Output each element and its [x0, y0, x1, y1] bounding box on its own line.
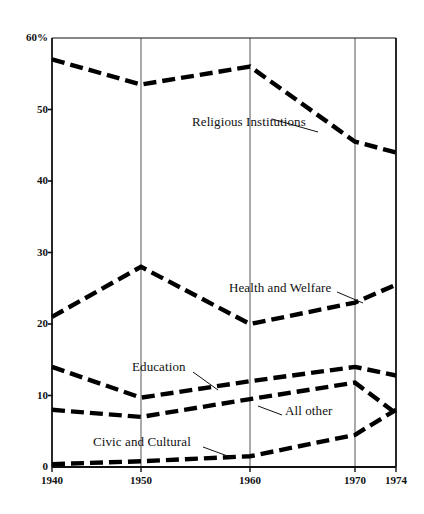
series-label-health-and-welfare: Health and Welfare: [229, 280, 331, 296]
y-axis-label-30: 30: [6, 246, 48, 258]
y-axis-label-0: 0: [6, 460, 48, 472]
series-label-all-other: All other: [285, 403, 332, 419]
tick-marks-group: [48, 110, 396, 473]
chart-container: 60%50403020100 19401950196019701974 Reli…: [0, 0, 424, 514]
y-axis-label-60: 60%: [6, 31, 48, 43]
y-axis-label-20: 20: [6, 317, 48, 329]
series-label-civic-and-cultural: Civic and Cultural: [93, 434, 191, 450]
y-axis-label-10: 10: [6, 389, 48, 401]
leader-line-all-other: [258, 406, 282, 415]
x-axis-label-1950: 1950: [120, 474, 162, 486]
series-label-education: Education: [132, 359, 186, 375]
y-axis-label-40: 40: [6, 174, 48, 186]
series-line-all-other: [52, 383, 396, 417]
x-axis-label-1970: 1970: [334, 474, 376, 486]
series-line-religious-institutions: [52, 59, 396, 152]
y-axis-label-50: 50: [6, 103, 48, 115]
series-label-religious-institutions: Religious Institutions: [192, 114, 306, 130]
x-axis-label-1974: 1974: [375, 474, 417, 486]
x-axis-label-1960: 1960: [229, 474, 271, 486]
x-axis-label-1940: 1940: [31, 474, 73, 486]
line-chart-plot: [0, 0, 424, 514]
